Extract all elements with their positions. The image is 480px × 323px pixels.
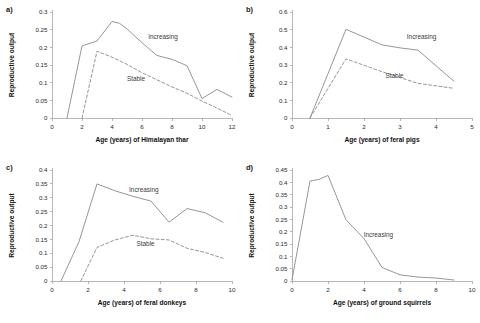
series-label-stable: Stable: [386, 72, 405, 79]
panel-tag: c): [6, 163, 13, 172]
x-axis-title: Age (years) of ground squirrels: [333, 299, 432, 307]
x-tick-label: 0: [50, 286, 54, 293]
x-tick-label: 12: [229, 123, 236, 130]
y-tick-label: 0: [44, 277, 48, 284]
x-tick-label: 6: [398, 286, 402, 293]
y-tick-label: 0.4: [279, 44, 288, 51]
y-tick-label: 0.15: [35, 236, 48, 243]
y-tick-label: 0.25: [35, 208, 48, 215]
chart-panel-c: c)00.050.10.150.20.250.30.350.40246810Ag…: [0, 158, 240, 323]
series-label-increasing: Increasing: [148, 33, 178, 41]
chart-panel-d: d)00.050.10.150.20.250.30.350.40.4502468…: [240, 158, 480, 323]
y-tick-label: 0.2: [39, 44, 48, 51]
x-axis-title: Age (years) of feral pigs: [344, 136, 419, 144]
panel-canvas: b)00.10.20.30.40.50.6012345Age (years) o…: [240, 0, 480, 160]
chart-panel-b: b)00.10.20.30.40.50.6012345Age (years) o…: [240, 0, 480, 160]
series-label-increasing: Increasing: [407, 33, 437, 41]
y-tick-label: 0.1: [39, 249, 48, 256]
y-tick-label: 0.1: [279, 253, 288, 260]
x-tick-label: 6: [158, 286, 162, 293]
x-tick-label: 0: [290, 123, 294, 130]
series-label-increasing: Increasing: [129, 186, 159, 194]
x-tick-label: 5: [470, 123, 474, 130]
series-line-increasing: [310, 29, 454, 118]
y-tick-label: 0.05: [275, 265, 288, 272]
y-tick-label: 0.1: [39, 79, 48, 86]
series-line-increasing: [292, 175, 454, 280]
x-tick-label: 10: [229, 286, 236, 293]
x-tick-label: 10: [199, 123, 206, 130]
chart-panel-a: a)00.050.10.150.20.250.3024681012Age (ye…: [0, 0, 240, 160]
x-tick-label: 2: [326, 286, 330, 293]
panel-canvas: c)00.050.10.150.20.250.30.350.40246810Ag…: [0, 158, 240, 323]
y-tick-label: 0.3: [279, 203, 288, 210]
y-tick-label: 0.15: [275, 240, 288, 247]
x-axis-title: Age (years) of Himalayan thar: [95, 136, 189, 144]
y-axis-title: Reproductive output: [8, 32, 16, 97]
y-tick-label: 0.5: [279, 26, 288, 33]
series-label-stable: Stable: [127, 75, 146, 82]
y-tick-label: 0: [284, 277, 288, 284]
series-label-stable: Stable: [137, 240, 156, 247]
y-tick-label: 0.35: [35, 180, 48, 187]
series-label-increasing: Increasing: [364, 231, 394, 239]
panel-canvas: d)00.050.10.150.20.250.30.350.40.4502468…: [240, 158, 480, 323]
x-tick-label: 2: [362, 123, 366, 130]
series-line-increasing: [61, 184, 223, 281]
series-line-stable: [310, 59, 454, 118]
y-tick-label: 0.1: [279, 97, 288, 104]
y-tick-label: 0.2: [39, 222, 48, 229]
panel-tag: d): [246, 163, 254, 172]
x-tick-label: 2: [80, 123, 84, 130]
panel-tag: a): [6, 5, 13, 14]
panel-canvas: a)00.050.10.150.20.250.3024681012Age (ye…: [0, 0, 240, 160]
y-axis-title: Reproductive output: [248, 192, 256, 257]
x-tick-label: 8: [434, 286, 438, 293]
x-tick-label: 6: [140, 123, 144, 130]
x-tick-label: 4: [110, 123, 114, 130]
x-tick-label: 0: [50, 123, 54, 130]
y-tick-label: 0: [284, 114, 288, 121]
y-tick-label: 0.35: [275, 191, 288, 198]
x-tick-label: 3: [398, 123, 402, 130]
y-tick-label: 0.3: [279, 61, 288, 68]
y-tick-label: 0.45: [275, 166, 288, 173]
y-tick-label: 0.25: [275, 216, 288, 223]
y-tick-label: 0.4: [279, 179, 288, 186]
x-tick-label: 4: [434, 123, 438, 130]
series-line-stable: [82, 51, 232, 118]
y-axis-title: Reproductive output: [248, 32, 256, 97]
x-tick-label: 4: [362, 286, 366, 293]
x-tick-label: 8: [170, 123, 174, 130]
y-tick-label: 0.2: [279, 228, 288, 235]
x-tick-label: 0: [290, 286, 294, 293]
y-tick-label: 0.15: [35, 61, 48, 68]
y-tick-label: 0.3: [39, 8, 48, 15]
y-tick-label: 0.25: [35, 26, 48, 33]
y-axis-title: Reproductive output: [8, 192, 16, 257]
y-tick-label: 0.05: [35, 263, 48, 270]
y-tick-label: 0.6: [279, 8, 288, 15]
y-tick-label: 0.2: [279, 79, 288, 86]
x-tick-label: 8: [194, 286, 198, 293]
y-tick-label: 0: [44, 114, 48, 121]
x-tick-label: 10: [469, 286, 476, 293]
panel-tag: b): [246, 5, 254, 14]
x-axis-title: Age (years) of feral donkeys: [98, 299, 187, 307]
x-tick-label: 2: [86, 286, 90, 293]
y-tick-label: 0.3: [39, 194, 48, 201]
x-tick-label: 1: [326, 123, 330, 130]
reproductive-output-figure: a)00.050.10.150.20.250.3024681012Age (ye…: [0, 0, 480, 323]
x-tick-label: 4: [122, 286, 126, 293]
y-tick-label: 0.05: [35, 97, 48, 104]
y-tick-label: 0.4: [39, 166, 48, 173]
